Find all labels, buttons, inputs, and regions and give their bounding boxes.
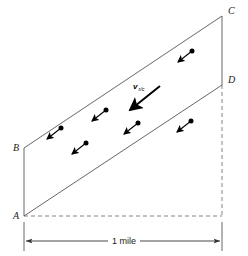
current-arrow-3-dot	[104, 108, 109, 113]
current-arrow-1-shaft	[47, 128, 61, 139]
vertex-label-group: A B C D	[12, 5, 236, 221]
current-arrow-1-dot	[59, 126, 64, 131]
vertex-label-B: B	[13, 142, 19, 153]
current-arrow-2-shaft	[72, 143, 86, 154]
current-arrow-2	[72, 141, 89, 155]
main-velocity-vector: v r/c	[130, 82, 160, 110]
dimension-line-group: 1 mile	[24, 222, 222, 251]
current-arrow-5-dot	[189, 119, 194, 124]
current-arrow-6-dot	[190, 49, 195, 54]
river-diagram: v r/c A B C D 1 mile	[0, 0, 248, 256]
current-arrow-2-dot	[84, 141, 89, 146]
current-arrow-4	[124, 121, 141, 135]
current-arrow-group	[47, 49, 195, 155]
main-velocity-vector-label: v	[133, 82, 138, 91]
current-arrow-5	[177, 119, 194, 133]
vertex-label-C: C	[228, 5, 235, 16]
vertex-label-A: A	[12, 210, 20, 221]
vertex-label-D: D	[227, 74, 236, 85]
figure-container: v r/c A B C D 1 mile	[0, 0, 248, 256]
current-arrow-6-shaft	[178, 51, 192, 62]
river-channel-parallelogram	[24, 16, 222, 216]
current-arrow-5-shaft	[177, 121, 191, 132]
lower-bank-line	[24, 85, 222, 216]
upper-bank-line	[24, 16, 222, 148]
current-arrow-4-dot	[136, 121, 141, 126]
current-arrow-3-shaft	[92, 110, 106, 121]
current-arrow-4-shaft	[124, 123, 138, 134]
current-arrow-3	[92, 108, 109, 122]
main-velocity-vector-subscript: r/c	[139, 86, 145, 92]
current-arrow-6	[178, 49, 195, 63]
dimension-label: 1 mile	[112, 236, 136, 246]
